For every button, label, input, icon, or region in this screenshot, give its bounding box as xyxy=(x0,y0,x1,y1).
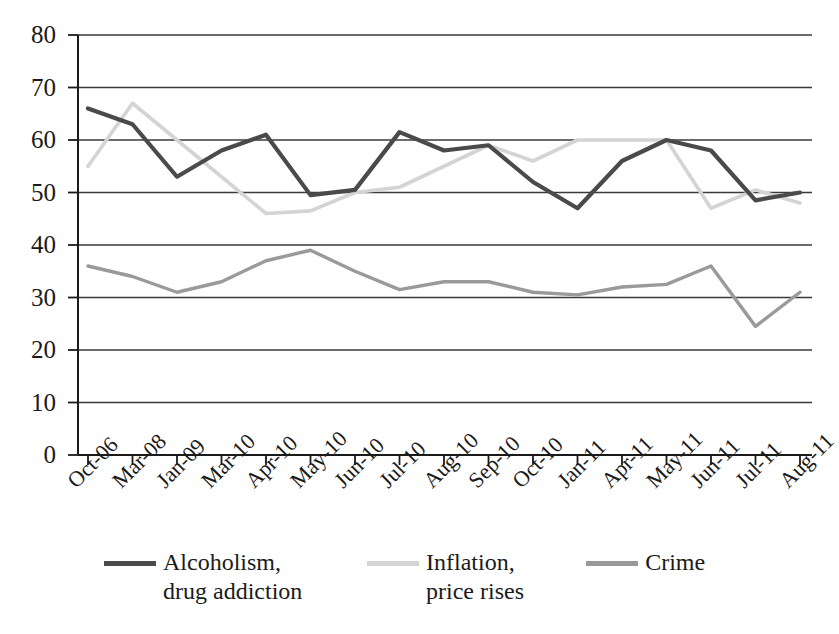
legend-swatch-icon xyxy=(586,561,638,566)
gridlines xyxy=(78,35,812,403)
y-axis-tick-label: 60 xyxy=(0,127,56,152)
data-series-group xyxy=(88,103,800,326)
legend-entry[interactable]: Inflation, price rises xyxy=(367,548,586,606)
chart-legend: Alcoholism, drug addictionInflation, pri… xyxy=(104,548,744,618)
y-axis-tick-label: 50 xyxy=(0,180,56,205)
legend-label: Inflation, price rises xyxy=(426,548,524,606)
legend-label: Crime xyxy=(645,548,705,577)
y-axis-tick-label: 20 xyxy=(0,337,56,362)
legend-label: Alcoholism, drug addiction xyxy=(163,548,302,606)
y-axis-tick-label: 0 xyxy=(0,442,56,467)
y-axis-tick-label: 70 xyxy=(0,75,56,100)
y-axis-ticks xyxy=(68,35,78,455)
y-axis-tick-label: 40 xyxy=(0,232,56,257)
legend-swatch-icon xyxy=(367,561,419,566)
legend-entry[interactable]: Alcoholism, drug addiction xyxy=(104,548,367,606)
y-axis-tick-label: 80 xyxy=(0,22,56,47)
y-axis-tick-label: 30 xyxy=(0,285,56,310)
legend-entry[interactable]: Crime xyxy=(586,548,744,577)
series-line xyxy=(88,250,800,326)
series-line xyxy=(88,103,800,213)
y-axis-tick-label: 10 xyxy=(0,390,56,415)
legend-swatch-icon xyxy=(104,561,156,566)
